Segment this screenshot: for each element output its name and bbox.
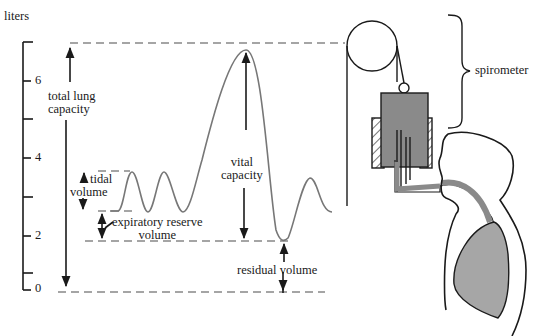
label-line: volume	[112, 229, 203, 242]
label-line: volume	[70, 186, 112, 199]
label-line: capacity	[221, 169, 263, 182]
lung-volume-diagram	[0, 0, 552, 336]
pulley	[347, 21, 397, 71]
spirogram-curve	[110, 50, 332, 240]
tick-label-2: 2	[35, 228, 41, 243]
label-expiratory-reserve-volume: expiratory reserve volume	[112, 216, 203, 242]
label-tidal-volume: tidal volume	[70, 173, 112, 199]
label-vital-capacity: vital capacity	[221, 156, 263, 182]
spirometer-brace	[448, 15, 470, 128]
axis-unit-label: liters	[4, 10, 29, 23]
label-total-lung-capacity: total lung capacity	[48, 90, 96, 116]
tick-label-0: 0	[35, 281, 41, 296]
label-line: capacity	[48, 103, 96, 116]
tick-label-4: 4	[35, 150, 41, 165]
tick-label-6: 6	[35, 73, 41, 88]
reference-dashes	[58, 43, 345, 292]
y-axis	[23, 42, 33, 290]
spirometer-bell	[381, 93, 428, 167]
label-spirometer: spirometer	[475, 64, 528, 77]
spirometer-apparatus	[347, 21, 494, 224]
lung	[454, 222, 509, 318]
label-residual-volume: residual volume	[237, 264, 317, 277]
